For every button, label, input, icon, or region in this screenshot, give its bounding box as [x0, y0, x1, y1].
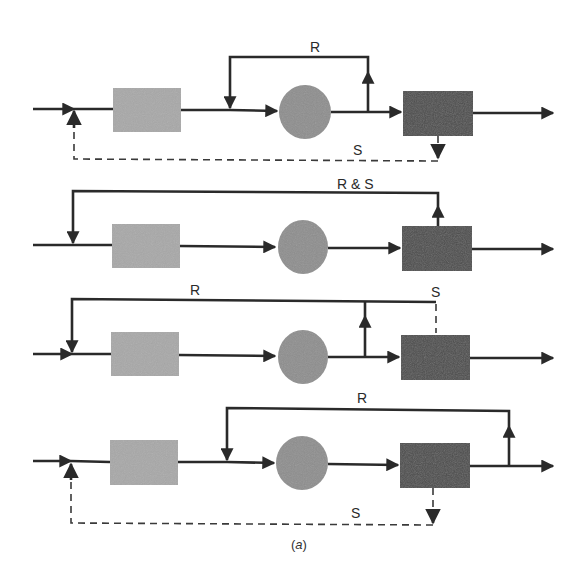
mixer-block — [111, 332, 179, 376]
reactor-inlet-arrow — [179, 355, 275, 356]
diagram-config-1: R S — [33, 39, 553, 161]
label-r-and-s: R & S — [337, 176, 374, 192]
mixer-block — [112, 224, 180, 268]
mixer-block — [110, 440, 178, 485]
mixer-block — [113, 88, 181, 132]
reactor-inlet-arrow — [180, 246, 275, 247]
reactor-circle — [278, 330, 328, 384]
separator-block — [401, 335, 470, 380]
split-loop-s — [74, 128, 438, 161]
label-s: S — [431, 284, 440, 300]
caption-close-paren: ) — [303, 537, 307, 552]
label-r: R — [190, 282, 200, 298]
figure-caption: (a) — [291, 537, 307, 552]
label-s: S — [351, 505, 360, 521]
separator-inlet-arrow — [328, 464, 398, 465]
reactor-inlet-arrow — [227, 462, 274, 463]
separator-block — [403, 91, 473, 136]
process-flow-figure: R S R & S R S — [0, 0, 586, 580]
label-r: R — [357, 390, 367, 406]
split-loop-s — [71, 480, 433, 525]
reactor-inlet-arrow — [230, 110, 277, 111]
feed-line — [71, 461, 110, 462]
diagram-config-2: R & S — [33, 176, 553, 274]
reactor-circle — [279, 85, 331, 139]
diagram-config-3: R S — [33, 282, 553, 384]
label-r: R — [310, 39, 320, 55]
reactor-circle — [276, 436, 328, 490]
diagram-config-4: R S — [33, 390, 553, 525]
separator-block — [402, 226, 472, 271]
caption-letter: a — [295, 537, 302, 552]
separator-block — [400, 443, 470, 488]
label-s: S — [353, 142, 362, 158]
reactor-circle — [278, 220, 328, 274]
